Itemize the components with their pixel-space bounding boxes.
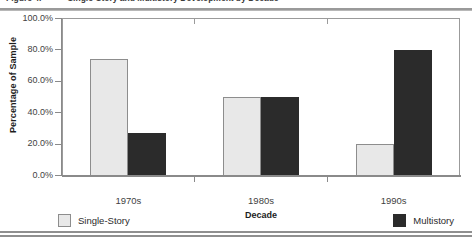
x-separator-tick-1 (194, 175, 195, 182)
x-tick-label-1990s: 1990s (327, 195, 460, 206)
y-tick-mark-100 (55, 18, 62, 19)
bar-groups (62, 18, 460, 176)
figure-title-strip: Figure 4.Single-Story and Multistory Dev… (0, 0, 472, 7)
figure-title-line: Figure 4.Single-Story and Multistory Dev… (6, 0, 279, 4)
bar-single-story-1970s[interactable] (90, 59, 128, 176)
x-separator-inner-1 (194, 18, 195, 24)
x-separator-tick-2 (327, 175, 328, 182)
x-tick-label-1970s: 1970s (62, 195, 195, 206)
bar-single-story-1980s[interactable] (223, 97, 261, 176)
chart-legend: Single-Story Multistory (58, 212, 454, 228)
y-tick-mark-40 (55, 112, 62, 113)
bar-multistory-1970s[interactable] (128, 133, 166, 176)
y-tick-label-0: 0.0% (3, 171, 53, 180)
y-tick-mark-20 (55, 144, 62, 145)
figure-container: Figure 4.Single-Story and Multistory Dev… (0, 0, 472, 237)
bar-group-1980s (195, 18, 328, 176)
bar-group-1970s (62, 18, 195, 176)
plot-wrapper: 100.0% 80.0% 60.0% 40.0% 20.0% 0.0% Perc… (0, 12, 472, 180)
y-tick-label-100: 100.0% (3, 14, 53, 23)
x-tick-label-1980s: 1980s (195, 195, 328, 206)
y-tick-mark-60 (55, 81, 62, 82)
y-axis-title: Percentage of Sample (8, 25, 18, 145)
bar-multistory-1990s[interactable] (394, 50, 432, 176)
bar-group-1990s (327, 18, 460, 176)
legend-divider-rule (0, 231, 472, 233)
figure-title-text: Single-Story and Multistory Development … (67, 0, 278, 3)
legend-item-single-story[interactable]: Single-Story (58, 214, 130, 227)
legend-label-multistory: Multistory (413, 215, 454, 226)
y-tick-mark-80 (55, 49, 62, 50)
x-axis-line (62, 175, 461, 177)
bar-multistory-1980s[interactable] (261, 97, 299, 176)
y-tick-mark-0 (55, 175, 62, 176)
x-separator-inner-2 (327, 18, 328, 24)
figure-caption-label: Figure 4. (6, 0, 41, 3)
bar-single-story-1990s[interactable] (356, 144, 394, 176)
legend-item-multistory[interactable]: Multistory (393, 214, 454, 227)
legend-swatch-single-story-icon (58, 214, 71, 227)
legend-label-single-story: Single-Story (78, 215, 130, 226)
x-axis-labels: 1970s 1980s 1990s (62, 195, 460, 206)
legend-swatch-multistory-icon (393, 214, 406, 227)
